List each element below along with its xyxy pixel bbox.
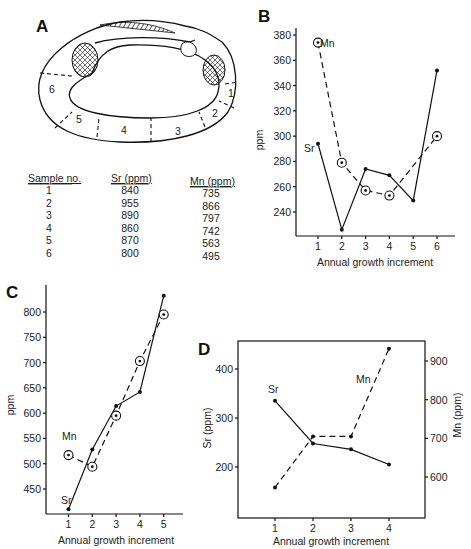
table-header-sr: Sr (ppm) xyxy=(111,172,152,184)
table-cell: 735 xyxy=(202,187,220,199)
table-cell: 866 xyxy=(202,200,220,212)
table-cell: 890 xyxy=(121,209,139,221)
x-axis-title: Annual growth increment xyxy=(273,535,389,547)
zone-divider xyxy=(199,112,205,127)
data-point-center xyxy=(364,189,367,192)
data-point-center xyxy=(388,194,391,197)
table-cell: 6 xyxy=(46,247,52,259)
hinge-line xyxy=(95,38,195,43)
zone-divider xyxy=(97,118,99,137)
zone-label: 4 xyxy=(121,124,127,136)
y-tick-label: 650 xyxy=(23,382,41,394)
x-tick-label: 3 xyxy=(348,522,354,534)
y-axis-title: ppm xyxy=(4,395,16,416)
panel-c-chart: C 12345450500550600650700750800 Annual g… xyxy=(4,283,183,546)
x-axis-title: Annual growth increment xyxy=(317,256,433,268)
table-cell: 840 xyxy=(121,184,139,196)
data-point-sr xyxy=(114,404,118,408)
x-tick-label: 1 xyxy=(66,518,72,530)
data-point-sr xyxy=(349,447,353,451)
x-tick-label: 3 xyxy=(363,240,369,252)
panel-a: A xyxy=(28,17,238,262)
x-axis-title: Annual growth increment xyxy=(58,534,174,546)
x-tick-label: 6 xyxy=(434,240,440,252)
data-point-center xyxy=(91,465,94,468)
data-point-sr xyxy=(387,173,391,177)
series-label-mn: Mn xyxy=(356,373,371,385)
series-label-mn: Mn xyxy=(62,430,77,442)
y-axis-title-left: Sr (ppm) xyxy=(201,408,213,449)
data-point-sr xyxy=(411,199,415,203)
x-tick-label: 2 xyxy=(339,240,345,252)
y-tick-label-right: 600 xyxy=(430,471,448,483)
ligament xyxy=(100,22,175,33)
x-tick-label: 4 xyxy=(137,518,143,530)
table-cell: 860 xyxy=(121,222,139,234)
adductor-scar-anterior xyxy=(72,43,98,77)
table-header-mn: Mn (ppm) xyxy=(190,175,235,187)
chart-b-plot: 123456240260280300320340360380 xyxy=(273,28,455,252)
data-point-center xyxy=(340,161,343,164)
series-line-sr xyxy=(318,70,437,229)
zone-label: 2 xyxy=(212,107,218,119)
y-tick-label: 340 xyxy=(273,80,291,92)
y-tick-label: 240 xyxy=(273,206,291,218)
series-label-sr: Sr xyxy=(304,142,315,154)
zone-label: 6 xyxy=(49,83,55,95)
data-point-center xyxy=(162,313,165,316)
data-point-sr xyxy=(138,390,142,394)
plot-frame xyxy=(238,341,425,518)
data-point-sr xyxy=(273,399,277,403)
data-point-mn xyxy=(311,434,315,438)
panel-d-chart: D 1234200300400600700800900 Annual growt… xyxy=(198,340,463,547)
x-tick-label: 2 xyxy=(310,522,316,534)
figure-canvas: A xyxy=(0,0,471,549)
panel-letter-d: D xyxy=(198,340,210,359)
x-tick-label: 4 xyxy=(386,522,392,534)
y-tick-label: 200 xyxy=(215,461,233,473)
x-tick-label: 2 xyxy=(89,518,95,530)
y-tick-label: 400 xyxy=(215,363,233,375)
table-cell: 800 xyxy=(121,247,139,259)
zone-label: 1 xyxy=(228,87,234,99)
data-point-sr xyxy=(364,167,368,171)
y-axis-title-right: Mn (ppm) xyxy=(451,393,463,438)
zone-divider xyxy=(40,73,72,76)
sample-table: Sample no. Sr (ppm) Mn (ppm) 1 840 735 2… xyxy=(28,172,235,262)
data-point-mn xyxy=(273,485,277,489)
table-cell: 742 xyxy=(202,225,220,237)
table-cell: 797 xyxy=(202,212,220,224)
x-tick-label: 1 xyxy=(315,240,321,252)
y-axis-title: ppm xyxy=(253,130,265,151)
series-line-sr xyxy=(275,401,389,465)
y-tick-label: 600 xyxy=(23,407,41,419)
series-label-mn: Mn xyxy=(320,37,335,49)
y-tick-label: 380 xyxy=(273,29,291,41)
y-tick-label: 800 xyxy=(23,306,41,318)
data-point-center xyxy=(317,41,320,44)
y-tick-label: 750 xyxy=(23,331,41,343)
table-cell: 955 xyxy=(121,197,139,209)
data-point-center xyxy=(115,414,118,417)
panel-letter-a: A xyxy=(36,17,48,36)
x-tick-label: 5 xyxy=(410,240,416,252)
shell-illustration: 1 2 3 4 5 6 xyxy=(39,20,238,142)
y-tick-label: 260 xyxy=(273,181,291,193)
y-tick-label-right: 900 xyxy=(430,355,448,367)
panel-b-chart: B 123456240260280300320340360380 Annual … xyxy=(253,7,455,268)
series-line-mn xyxy=(275,349,389,488)
zone-label: 3 xyxy=(175,125,181,137)
y-tick-label-right: 800 xyxy=(430,394,448,406)
data-point-center xyxy=(436,135,439,138)
zone-divider xyxy=(55,112,72,128)
y-tick-label: 280 xyxy=(273,155,291,167)
y-tick-label-right: 700 xyxy=(430,432,448,444)
panel-letter-b: B xyxy=(258,7,270,26)
x-tick-label: 4 xyxy=(386,240,392,252)
chart-c-plot: 12345450500550600650700750800 xyxy=(23,285,183,530)
data-point-mn xyxy=(349,434,353,438)
data-point-sr xyxy=(316,142,320,146)
siphon-notch xyxy=(181,42,197,57)
data-point-sr xyxy=(340,228,344,232)
series-label-sr: Sr xyxy=(61,494,72,506)
